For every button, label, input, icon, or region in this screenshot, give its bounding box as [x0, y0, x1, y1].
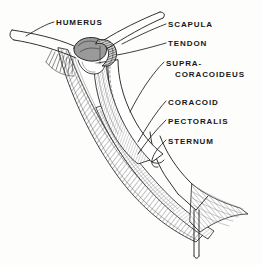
leader-tendon	[117, 43, 166, 55]
label-supracoracoideus-line2: CORACOIDEUS	[166, 69, 245, 80]
figure-canvas: HUMERUS SCAPULA TENDON SUPRA- CORACOIDEU…	[0, 0, 262, 265]
label-sternum: STERNUM	[168, 137, 214, 147]
scapula-bone	[104, 12, 164, 48]
leader-humerus	[26, 22, 54, 36]
label-pectoralis: PECTORALIS	[168, 117, 228, 127]
anatomy-diagram	[0, 0, 262, 265]
label-humerus: HUMERUS	[56, 18, 103, 28]
label-scapula: SCAPULA	[168, 20, 213, 30]
label-coracoid: CORACOID	[168, 98, 219, 108]
label-supracoracoideus: SUPRA- CORACOIDEUS	[166, 58, 245, 80]
leader-supracoracoideus	[130, 62, 164, 112]
label-tendon: TENDON	[168, 39, 207, 49]
label-supracoracoideus-line1: SUPRA-	[166, 59, 202, 68]
